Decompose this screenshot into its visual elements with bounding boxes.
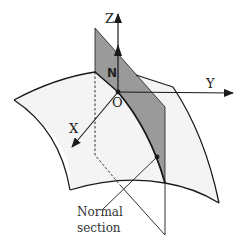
x-axis-label: X [69, 122, 78, 135]
origin-point [116, 90, 121, 95]
plane-lower-edge [120, 183, 165, 235]
caption-line-1: Normal [77, 206, 123, 218]
normal-vector-label: N [107, 67, 117, 79]
z-axis-label: Z [105, 12, 114, 25]
caption-line-2: section [77, 222, 121, 234]
y-axis-label: Y [206, 77, 215, 90]
origin-label: O [112, 96, 123, 109]
normal-section-diagram: Z Y X O N Normal section [0, 0, 243, 247]
normal-vector-arrowhead [114, 44, 122, 56]
